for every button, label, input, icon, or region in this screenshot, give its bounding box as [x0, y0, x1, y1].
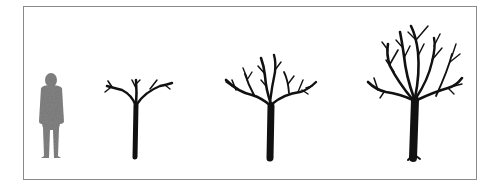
scale-diagram [0, 0, 501, 190]
tree-medium-icon [226, 55, 316, 158]
person-silhouette-icon [39, 73, 64, 158]
tree-large-icon [368, 26, 462, 160]
tree-small-icon [105, 80, 172, 157]
